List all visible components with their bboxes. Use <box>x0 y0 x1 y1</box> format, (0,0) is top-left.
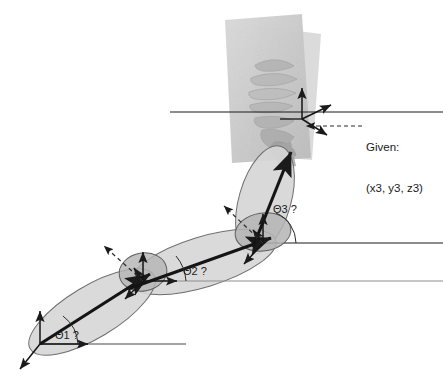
given-annotation: Given: (x3, y3, z3) <box>366 114 423 223</box>
theta2-label: Θ2 ? <box>183 265 207 278</box>
given-value: (x3, y3, z3) <box>366 182 423 196</box>
given-title: Given: <box>366 141 423 155</box>
diagram-canvas: Θ1 ? Θ2 ? Θ3 ? Given: (x3, y3, z3) <box>0 0 443 376</box>
theta3-label: Θ3 ? <box>273 203 297 216</box>
theta1-label: Θ1 ? <box>55 329 79 342</box>
